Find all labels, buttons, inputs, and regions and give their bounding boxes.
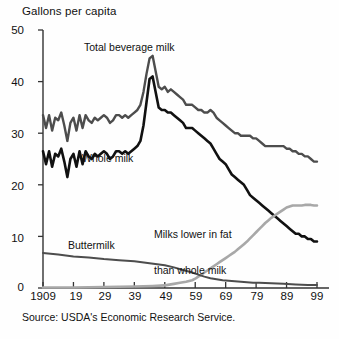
chart-figure: Gallons per capita 50 40 30 20 10 0 1909… <box>0 0 339 339</box>
source-note: Source: USDA's Economic Research Service… <box>22 311 235 323</box>
annotation-lower-fat-milk: Milks lower in fat than whole milk <box>154 204 232 300</box>
annotation-total-beverage-milk: Total beverage milk <box>84 41 174 53</box>
annotation-lower-fat-line2: than whole milk <box>154 264 232 276</box>
annotation-whole-milk: Whole milk <box>82 152 133 164</box>
annotation-lower-fat-line1: Milks lower in fat <box>154 228 232 240</box>
y-axis-ticks <box>38 30 43 288</box>
series-line-total-beverage-milk <box>43 56 317 162</box>
annotation-buttermilk: Buttermilk <box>68 239 115 251</box>
